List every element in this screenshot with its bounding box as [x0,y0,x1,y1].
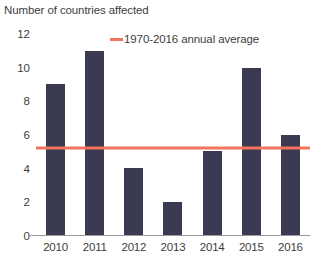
x-axis-baseline [30,235,310,236]
x-axis: 2010 2011 2012 2013 2014 2015 2016 [36,240,310,254]
x-tick-label-2010: 2010 [36,240,75,254]
bar-slot-2016 [271,34,310,235]
y-tick-label-12: 12 [17,28,30,40]
y-tick-label-10: 10 [17,62,30,74]
bar-slot-2011 [75,34,114,235]
bar-slot-2010 [36,34,75,235]
bar-2015 [242,68,261,236]
x-tick-label-2013: 2013 [153,240,192,254]
bar-chart-figure: Number of countries affected 1970-2016 a… [0,0,325,262]
bar-slot-2012 [114,34,153,235]
x-tick-label-2012: 2012 [114,240,153,254]
y-tick-label-6: 6 [24,129,30,141]
x-tick-label-2015: 2015 [232,240,271,254]
bar-2012 [124,168,143,235]
bar-2013 [163,202,182,235]
average-reference-line [36,147,310,150]
chart-title: Number of countries affected [4,3,149,17]
y-tick-label-2: 2 [24,196,30,208]
bar-series [36,34,310,235]
bar-2011 [85,51,104,235]
bar-2014 [203,151,222,235]
bar-slot-2014 [193,34,232,235]
y-tick-label-0: 0 [24,230,30,242]
x-tick-label-2016: 2016 [271,240,310,254]
bar-2010 [46,84,65,235]
x-tick-label-2011: 2011 [75,240,114,254]
bar-slot-2015 [232,34,271,235]
y-tick-label-4: 4 [24,163,30,175]
y-tick-label-8: 8 [24,95,30,107]
x-tick-label-2014: 2014 [193,240,232,254]
plot-area: 12 10 8 6 4 2 0 [36,34,310,236]
bar-slot-2013 [153,34,192,235]
